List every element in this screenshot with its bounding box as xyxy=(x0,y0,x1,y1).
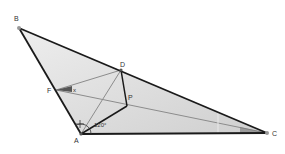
side-a-c xyxy=(81,133,267,134)
point-c xyxy=(265,131,269,135)
label-a: A xyxy=(74,137,79,144)
label-d: D xyxy=(120,61,125,68)
label-x: x xyxy=(73,87,76,93)
label-c: C xyxy=(272,130,277,137)
point-a xyxy=(79,132,82,135)
label-f: F xyxy=(47,87,51,94)
label-b: B xyxy=(14,15,19,22)
label-p: P xyxy=(128,94,133,101)
point-b xyxy=(17,26,21,30)
geometry-diagram: B D F x P 120° A C xyxy=(0,0,285,154)
point-d xyxy=(119,68,122,71)
label-angle-120: 120° xyxy=(94,122,107,128)
